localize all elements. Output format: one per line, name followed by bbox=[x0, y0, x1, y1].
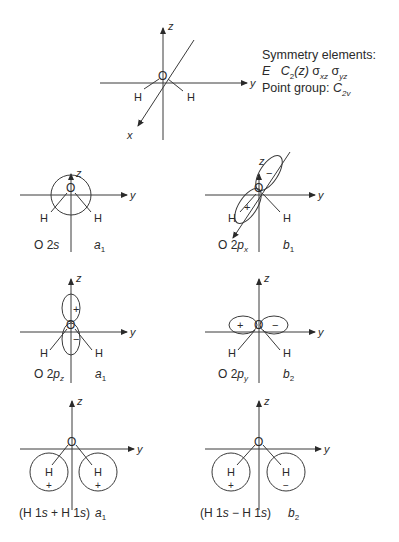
irrep-label: a1 bbox=[95, 367, 107, 383]
plus-sign: + bbox=[228, 480, 234, 491]
y-axis-label: y bbox=[129, 326, 137, 338]
minus-sign: − bbox=[272, 319, 278, 331]
hydrogen-label: H bbox=[94, 212, 102, 224]
orbital-label: (H 1s − H 1s) bbox=[200, 506, 271, 520]
minus-sign: − bbox=[266, 167, 272, 179]
oh-bond-right bbox=[168, 79, 183, 91]
plus-sign: + bbox=[73, 303, 79, 315]
panel-h1s-plus: z y O H H + + (H 1s + H 1s) a1 bbox=[19, 395, 144, 522]
orbital-label: (H 1s + H 1s) bbox=[19, 506, 90, 520]
oxygen-label: O bbox=[158, 69, 167, 83]
irrep-label: b2 bbox=[283, 367, 295, 383]
c2-axis: (z) bbox=[294, 64, 309, 78]
hydrogen-label-left: H bbox=[134, 91, 142, 103]
oxygen-label: O bbox=[254, 318, 263, 332]
oxygen-label: O bbox=[254, 435, 263, 449]
y-axis-label: y bbox=[317, 189, 325, 201]
point-group-label: Point group: bbox=[262, 81, 329, 95]
y-axis-label: y bbox=[129, 189, 137, 201]
z-axis-label: z bbox=[75, 272, 82, 284]
oxygen-label: O bbox=[254, 181, 263, 195]
x-axis-label: x bbox=[126, 129, 133, 141]
hydrogen-label: H bbox=[228, 212, 236, 224]
hydrogen-label: H bbox=[282, 466, 290, 478]
irrep-label: b1 bbox=[283, 238, 295, 254]
point-group-value: C bbox=[333, 81, 342, 95]
z-axis-label: z bbox=[263, 395, 270, 407]
y-axis-label: y bbox=[249, 77, 257, 89]
hydrogen-label: H bbox=[94, 466, 102, 478]
panel-h1s-minus: z y O H H + − (H 1s − H 1s) b2 bbox=[200, 395, 331, 522]
plus-sign: + bbox=[95, 480, 101, 491]
minus-sign: − bbox=[283, 480, 289, 491]
plus-sign: + bbox=[237, 319, 243, 331]
irrep-label: b2 bbox=[288, 506, 300, 522]
symmetry-elements-heading: Symmetry elements: bbox=[262, 47, 376, 63]
hydrogen-label-right: H bbox=[187, 91, 195, 103]
sigma-xz-element: σ bbox=[312, 64, 320, 78]
z-axis-label: z bbox=[167, 20, 174, 32]
y-axis-label: y bbox=[136, 443, 144, 455]
orbital-label: O 2px bbox=[218, 238, 249, 254]
minus-sign: − bbox=[73, 333, 79, 345]
hydrogen-label: H bbox=[283, 347, 291, 359]
orbital-label: O 2s bbox=[34, 238, 59, 252]
y-axis-label: y bbox=[317, 326, 325, 338]
oxygen-label: O bbox=[66, 318, 75, 332]
z-axis-label: z bbox=[75, 167, 82, 179]
irrep-label: a1 bbox=[94, 238, 106, 254]
z-axis-label: z bbox=[263, 272, 270, 284]
hydrogen-label: H bbox=[228, 347, 236, 359]
panel-o2pz: + − z y O H H O 2pz a1 bbox=[20, 272, 137, 383]
hydrogen-label: H bbox=[40, 347, 48, 359]
irrep-label: a1 bbox=[95, 506, 107, 522]
y-axis-label: y bbox=[323, 443, 331, 455]
panel-o2s: z y O H H O 2s a1 bbox=[20, 167, 137, 254]
identity-element: E bbox=[262, 64, 270, 78]
hydrogen-label: H bbox=[227, 466, 235, 478]
orbital-label: O 2py bbox=[218, 367, 249, 383]
plus-sign: + bbox=[244, 201, 250, 213]
hydrogen-label: H bbox=[95, 347, 103, 359]
oxygen-label: O bbox=[66, 181, 75, 195]
c2-element: C bbox=[281, 64, 290, 78]
hydrogen-label: H bbox=[283, 212, 291, 224]
z-axis-label: z bbox=[258, 155, 265, 167]
plus-sign: + bbox=[46, 480, 52, 491]
hydrogen-label: H bbox=[40, 212, 48, 224]
point-group-line: Point group: C2v bbox=[262, 80, 350, 102]
hydrogen-label: H bbox=[45, 466, 53, 478]
coordinate-frame bbox=[100, 28, 247, 140]
oh-bond-left bbox=[144, 79, 159, 89]
orbital-label: O 2pz bbox=[34, 367, 64, 383]
panel-o2px: − + z y O H H O 2px b1 bbox=[205, 151, 325, 254]
oxygen-label: O bbox=[67, 435, 76, 449]
point-group-subscript: 2v bbox=[342, 89, 350, 98]
panel-o2py: + − z y O H H O 2py b2 bbox=[205, 272, 325, 383]
z-axis-label: z bbox=[76, 395, 83, 407]
